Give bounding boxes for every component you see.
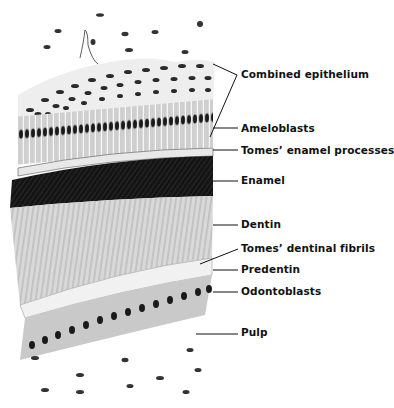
label-pulp: Pulp (241, 326, 268, 338)
label-combined-epithelium: Combined epithelium (241, 68, 369, 80)
pulp-region (31, 348, 202, 394)
label-tomes-dentinal-fibrils: Tomes’ dentinal fibrils (241, 242, 375, 254)
label-dentin: Dentin (241, 218, 281, 230)
label-enamel: Enamel (241, 174, 285, 186)
label-odontoblasts: Odontoblasts (241, 285, 321, 297)
label-predentin: Predentin (241, 263, 300, 275)
label-tomes-enamel-processes: Tomes’ enamel processes (241, 144, 394, 156)
label-ameloblasts: Ameloblasts (241, 122, 315, 134)
